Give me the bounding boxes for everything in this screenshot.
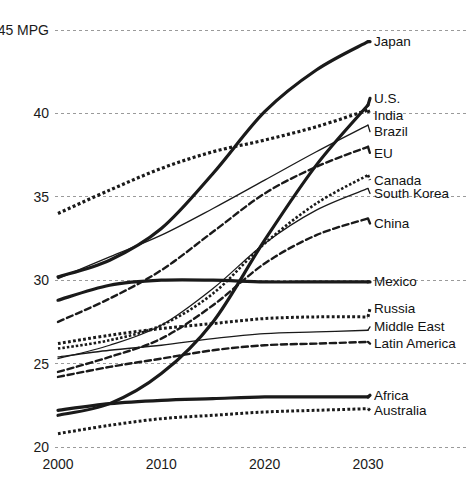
y-tick-label-30: 30	[33, 272, 49, 288]
series-label-u-s-: U.S.	[374, 91, 400, 106]
series-lines	[58, 42, 368, 434]
series-leader-canada	[368, 175, 370, 180]
chart-svg: 45 MPG4035302520 2000201020202030 JapanU…	[0, 0, 466, 484]
series-labels: JapanU.S.IndiaBrazilEUCanadaSouth KoreaC…	[368, 34, 456, 418]
series-leader-russia	[368, 309, 370, 317]
series-leader-brazil	[368, 125, 370, 132]
x-axis-tick-labels: 2000201020202030	[42, 456, 383, 472]
series-leader-australia	[368, 409, 370, 411]
series-line-south-korea	[58, 188, 368, 358]
series-line-u-s-	[58, 105, 368, 415]
series-leader-india	[368, 110, 370, 115]
series-line-china	[58, 218, 368, 371]
series-label-australia: Australia	[374, 403, 427, 418]
series-label-china: China	[374, 216, 410, 231]
x-tick-label-2020: 2020	[249, 456, 280, 472]
series-line-mexico	[58, 280, 368, 300]
series-label-south-korea: South Korea	[374, 186, 450, 201]
series-line-africa	[58, 397, 368, 410]
series-line-australia	[58, 409, 368, 434]
series-label-japan: Japan	[374, 34, 411, 49]
x-tick-label-2000: 2000	[42, 456, 73, 472]
series-leader-u-s-	[368, 98, 370, 105]
series-label-mexico: Mexico	[374, 274, 417, 289]
fuel-economy-line-chart: 45 MPG4035302520 2000201020202030 JapanU…	[0, 0, 466, 484]
y-axis-unit-label: 45 MPG	[0, 22, 49, 38]
series-label-brazil: Brazil	[374, 124, 408, 139]
series-label-russia: Russia	[374, 301, 416, 316]
y-tick-label-20: 20	[33, 439, 49, 455]
series-label-latin-america: Latin America	[374, 336, 456, 351]
series-line-india	[58, 110, 368, 213]
y-axis-tick-labels: 45 MPG4035302520	[0, 22, 49, 455]
series-label-africa: Africa	[374, 388, 409, 403]
gridlines	[55, 30, 466, 447]
series-leader-south-korea	[368, 189, 370, 194]
series-leader-china	[368, 219, 370, 224]
y-tick-label-35: 35	[33, 189, 49, 205]
y-tick-label-25: 25	[33, 356, 49, 372]
series-leader-latin-america	[368, 342, 370, 344]
series-leader-eu	[368, 147, 370, 154]
series-label-middle-east: Middle East	[374, 319, 445, 334]
series-leader-africa	[368, 395, 370, 397]
series-label-india: India	[374, 108, 404, 123]
x-tick-label-2010: 2010	[146, 456, 177, 472]
series-label-eu: EU	[374, 146, 393, 161]
series-line-brazil	[58, 125, 368, 278]
x-tick-label-2030: 2030	[352, 456, 383, 472]
series-leader-middle-east	[368, 327, 370, 330]
y-tick-label-40: 40	[33, 105, 49, 121]
